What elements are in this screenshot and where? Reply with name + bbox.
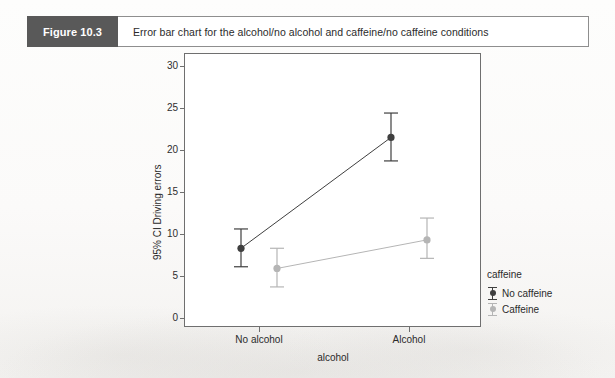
plot-frame [184, 53, 481, 327]
y-tick-label-5: 5 [152, 270, 178, 281]
legend-key-no-caffeine-icon [487, 286, 499, 301]
y-tick-mark-15 [180, 192, 185, 193]
error-bar-chart: 95% CI Driving errors 30 25 20 15 10 5 0… [0, 0, 615, 378]
x-tick-mark-alcohol [409, 327, 410, 332]
y-tick-mark-30 [180, 66, 185, 67]
y-tick-label-0: 0 [152, 312, 178, 323]
y-tick-mark-0 [180, 318, 185, 319]
y-tick-label-15: 15 [152, 186, 178, 197]
y-tick-label-10: 10 [152, 228, 178, 239]
y-tick-mark-25 [180, 108, 185, 109]
legend: caffeine No caffeine Caffeine [487, 269, 607, 317]
legend-label-caffeine: Caffeine [502, 304, 539, 315]
x-tick-mark-no-alcohol [259, 327, 260, 332]
legend-key-caffeine-icon [487, 302, 499, 317]
legend-title: caffeine [487, 269, 607, 280]
legend-item-caffeine[interactable]: Caffeine [487, 301, 607, 317]
y-tick-label-20: 20 [152, 144, 178, 155]
y-tick-mark-10 [180, 234, 185, 235]
y-tick-mark-5 [180, 276, 185, 277]
x-tick-label-alcohol: Alcohol [393, 334, 426, 345]
y-tick-label-25: 25 [152, 102, 178, 113]
x-axis-title: alcohol [317, 352, 349, 363]
legend-item-no-caffeine[interactable]: No caffeine [487, 285, 607, 301]
y-tick-label-30: 30 [152, 60, 178, 71]
x-tick-label-no-alcohol: No alcohol [235, 334, 282, 345]
y-tick-mark-20 [180, 150, 185, 151]
legend-label-no-caffeine: No caffeine [502, 288, 552, 299]
